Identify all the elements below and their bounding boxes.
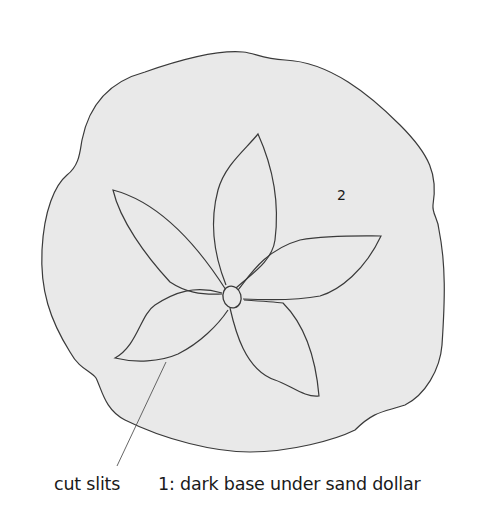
region-2-label: 2: [337, 187, 346, 203]
diagram-drawing: [0, 0, 477, 507]
sand-dollar-diagram: 2 cut slits 1: dark base under sand doll…: [0, 0, 477, 507]
outer-body: [42, 52, 445, 452]
region-1-label: 1: dark base under sand dollar: [158, 474, 420, 494]
cut-slits-label: cut slits: [54, 474, 120, 494]
